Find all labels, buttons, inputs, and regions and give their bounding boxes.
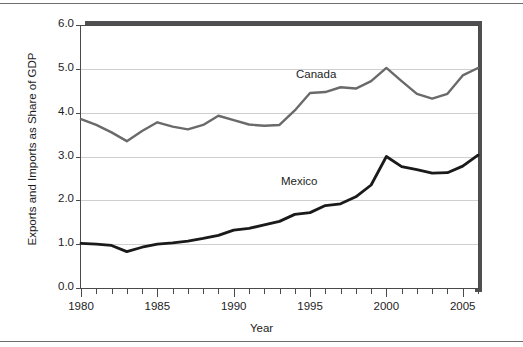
x-tick-minor xyxy=(112,289,113,294)
y-tick-label: 0.0 xyxy=(44,280,74,292)
y-tick-label: 1.0 xyxy=(44,236,74,248)
x-tick-minor xyxy=(203,289,204,294)
x-tick-label: 1985 xyxy=(145,300,171,312)
canada-series-label: Canada xyxy=(296,68,336,80)
x-tick-minor xyxy=(325,289,326,294)
x-tick-label: 1980 xyxy=(68,300,94,312)
x-tick-label: 2005 xyxy=(450,300,476,312)
x-tick-minor xyxy=(173,289,174,294)
x-tick-minor xyxy=(402,289,403,294)
x-tick-minor xyxy=(249,289,250,294)
gridline xyxy=(81,69,478,70)
x-tick-major xyxy=(310,289,311,297)
x-tick-label: 1990 xyxy=(221,300,247,312)
chart-figure: 0.01.02.03.04.05.06.0 198019851990199520… xyxy=(0,0,523,347)
y-tick-label: 6.0 xyxy=(44,17,74,29)
x-tick-minor xyxy=(280,289,281,294)
gridline xyxy=(81,157,478,158)
figure-top-border xyxy=(0,3,523,4)
x-tick-minor xyxy=(417,289,418,294)
x-tick-major xyxy=(81,289,82,297)
y-tick-label: 3.0 xyxy=(44,149,74,161)
x-axis-line xyxy=(80,288,479,289)
y-tick-label: 2.0 xyxy=(44,192,74,204)
x-tick-minor xyxy=(218,289,219,294)
x-tick-minor xyxy=(295,289,296,294)
mexico-series-label: Mexico xyxy=(281,175,317,187)
figure-bottom-border xyxy=(0,341,523,342)
plot-top-border xyxy=(80,25,479,26)
x-tick-major xyxy=(157,289,158,297)
x-tick-label: 2000 xyxy=(374,300,400,312)
x-tick-major xyxy=(386,289,387,297)
y-tick-label: 5.0 xyxy=(44,61,74,73)
x-tick-minor xyxy=(356,289,357,294)
x-tick-minor xyxy=(432,289,433,294)
x-tick-minor xyxy=(478,289,479,294)
x-tick-minor xyxy=(371,289,372,294)
y-axis-line xyxy=(80,25,81,289)
x-tick-major xyxy=(463,289,464,297)
gridline xyxy=(81,200,478,201)
x-axis-label: Year xyxy=(0,322,523,334)
x-tick-minor xyxy=(96,289,97,294)
gridline xyxy=(81,113,478,114)
x-tick-minor xyxy=(188,289,189,294)
gridline xyxy=(81,244,478,245)
x-tick-minor xyxy=(447,289,448,294)
x-tick-major xyxy=(234,289,235,297)
plot-right-border xyxy=(478,25,479,289)
y-axis-label: Exports and Imports as Share of GDP xyxy=(26,14,38,284)
x-tick-minor xyxy=(127,289,128,294)
y-tick-label: 4.0 xyxy=(44,105,74,117)
x-tick-minor xyxy=(264,289,265,294)
x-tick-minor xyxy=(142,289,143,294)
x-tick-label: 1995 xyxy=(297,300,323,312)
x-tick-minor xyxy=(341,289,342,294)
